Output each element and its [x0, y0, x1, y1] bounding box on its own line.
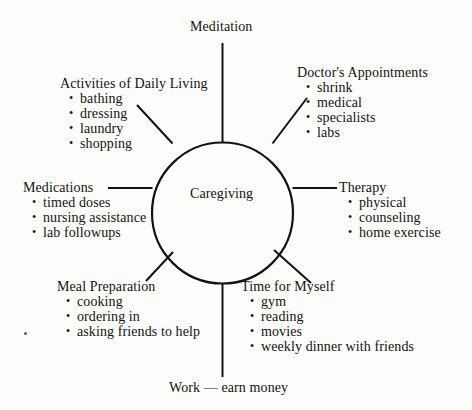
label-work: Work — earn money — [169, 380, 288, 396]
list-item: lab followups — [43, 225, 146, 240]
list-item: bathing — [80, 91, 208, 106]
branch-doctors-appointments: Doctor's Appointments shrink medical spe… — [297, 65, 428, 140]
list-item: counseling — [359, 210, 441, 225]
branch-meal-preparation: Meal Preparation cooking ordering in ask… — [57, 279, 200, 339]
spoke-meal-preparation — [146, 252, 173, 281]
branch-item-list: shrink medical specialists labs — [297, 80, 428, 140]
list-item: nursing assistance — [43, 210, 146, 225]
branch-title: Time for Myself — [241, 279, 414, 294]
list-item: medical — [317, 95, 428, 110]
list-item: timed doses — [43, 195, 146, 210]
branch-time-for-myself: Time for Myself gym reading movies weekl… — [241, 279, 414, 354]
branch-activities-of-daily-living: Activities of Daily Living bathing dress… — [60, 76, 208, 151]
branch-therapy: Therapy physical counseling home exercis… — [339, 180, 441, 240]
branch-title: Therapy — [339, 180, 441, 195]
list-item: home exercise — [359, 225, 441, 240]
branch-title: Medications — [23, 180, 146, 195]
branch-item-list: timed doses nursing assistance lab follo… — [23, 195, 146, 240]
branch-medications: Medications timed doses nursing assistan… — [23, 180, 146, 240]
list-item: laundry — [80, 121, 208, 136]
branch-title: Meal Preparation — [57, 279, 200, 294]
list-item: movies — [261, 324, 414, 339]
branch-title: Doctor's Appointments — [297, 65, 428, 80]
branch-item-list: cooking ordering in asking friends to he… — [57, 294, 200, 339]
center-label: Caregiving — [190, 186, 253, 202]
diagram-page: Caregiving Meditation Work — earn money … — [0, 0, 472, 410]
list-item: ordering in — [77, 309, 200, 324]
list-item: gym — [261, 294, 414, 309]
list-item: dressing — [80, 106, 208, 121]
list-item: specialists — [317, 110, 428, 125]
list-item: physical — [359, 195, 441, 210]
list-item: asking friends to help — [77, 324, 200, 339]
center-circle — [152, 143, 293, 284]
list-item: shrink — [317, 80, 428, 95]
list-item: weekly dinner with friends — [261, 339, 414, 354]
branch-item-list: physical counseling home exercise — [339, 195, 441, 240]
list-item: reading — [261, 309, 414, 324]
list-item: labs — [317, 125, 428, 140]
branch-item-list: gym reading movies weekly dinner with fr… — [241, 294, 414, 354]
label-meditation: Meditation — [190, 19, 252, 35]
branch-title: Activities of Daily Living — [60, 76, 208, 91]
scan-speck — [24, 332, 27, 335]
list-item: cooking — [77, 294, 200, 309]
list-item: shopping — [80, 136, 208, 151]
branch-item-list: bathing dressing laundry shopping — [60, 91, 208, 151]
